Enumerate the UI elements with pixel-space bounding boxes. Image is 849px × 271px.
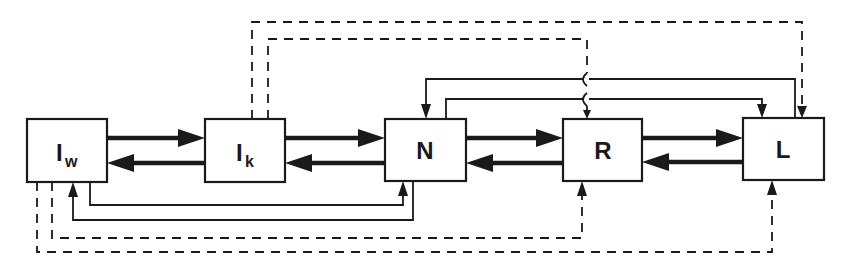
arrowhead-icon <box>466 154 493 172</box>
arrowhead-icon <box>536 129 563 147</box>
arrowhead-icon <box>285 154 312 172</box>
edge-iw-to-n <box>90 182 403 205</box>
edge-ik-to-l-dashed <box>252 22 802 119</box>
node-iw-label: I <box>56 139 63 166</box>
node-n: N <box>385 119 466 181</box>
arrowhead-icon <box>577 181 587 196</box>
arrowhead-icon <box>583 110 591 119</box>
node-ik: I k <box>205 119 285 182</box>
node-n-label: N <box>416 137 433 164</box>
arrowhead-icon <box>421 104 431 119</box>
node-l: L <box>743 118 824 180</box>
node-r-label: R <box>594 137 611 164</box>
arrowhead-icon <box>398 181 408 196</box>
arrowhead-icon <box>757 104 767 118</box>
node-r: R <box>563 119 642 181</box>
arrowhead-icon <box>767 180 777 195</box>
arrowhead-icon <box>178 129 205 147</box>
arrowhead-icon <box>716 129 743 147</box>
node-ik-label: I <box>236 139 243 166</box>
arrowhead-icon <box>107 154 134 172</box>
edge-iw-to-r-dashed <box>52 182 582 238</box>
edge-n-to-l <box>446 99 762 119</box>
arrowhead-icon <box>68 182 78 197</box>
node-iw-subscript: w <box>64 153 78 170</box>
block-diagram: I w I k N R L <box>0 0 849 271</box>
node-ik-subscript: k <box>245 153 254 170</box>
arrowhead-icon <box>358 129 385 147</box>
node-iw: I w <box>27 119 107 182</box>
edge-n-to-iw <box>73 181 413 220</box>
arrowhead-icon <box>642 153 669 171</box>
node-l-label: L <box>776 136 791 163</box>
arrowhead-icon <box>797 106 807 118</box>
